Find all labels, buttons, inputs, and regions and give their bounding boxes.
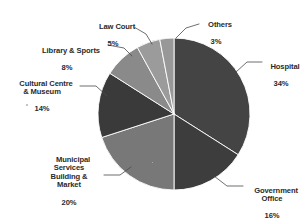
pie-label-hospital: Hospital 34%	[258, 54, 304, 106]
pie-label-cultural-centre-percent: 14%	[6, 105, 78, 114]
pie-label-municipal-percent: 20%	[36, 199, 102, 208]
pie-label-law-court-text: Law Court	[99, 22, 135, 31]
pie-label-law-court: Law Court 5%	[90, 14, 136, 66]
pie-label-government-office-percent: 16%	[240, 212, 304, 221]
pie-chart-figure: Hospital 34% Government Office 16% Munic…	[0, 0, 307, 222]
pie-label-municipal-text: Municipal Services Building & Market	[51, 155, 91, 190]
pie-label-municipal: Municipal Services Building & Market 20%	[36, 147, 102, 222]
leader-line-law-court	[134, 27, 152, 44]
pie-label-law-court-percent: 5%	[90, 40, 136, 49]
pie-label-government-office-text: Government Office	[254, 186, 298, 204]
pie-label-hospital-text: Hospital	[270, 62, 299, 71]
pie-label-others-text: Others	[208, 20, 232, 29]
pie-label-others-percent: 3%	[196, 38, 236, 47]
pie-label-hospital-percent: 34%	[258, 80, 304, 89]
leader-line-government-office	[214, 176, 243, 186]
pie-label-government-office: Government Office 16%	[240, 178, 304, 222]
pie-label-others: Others 3%	[196, 12, 236, 64]
